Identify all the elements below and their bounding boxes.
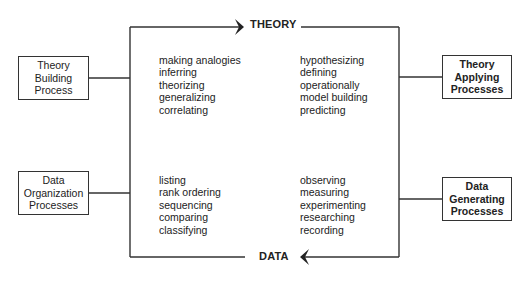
list-item: hypothesizing	[300, 54, 368, 66]
data-generating-processes-box: Data Generating Processes	[442, 177, 512, 221]
list-item: defining	[300, 66, 368, 78]
list-item: inferring	[159, 66, 241, 78]
list-item: recording	[300, 224, 366, 236]
list-item: sequencing	[159, 199, 221, 211]
theory-building-process-box: Theory Building Process	[18, 56, 89, 100]
list-item: making analogies	[159, 54, 241, 66]
theory-building-skills-list: making analogies inferring theorizing ge…	[159, 54, 241, 116]
theory-applying-skills-list: hypothesizing defining operationally mod…	[300, 54, 368, 116]
theory-label: THEORY	[250, 18, 297, 30]
theory-applying-processes-box: Theory Applying Processes	[442, 55, 512, 99]
data-organization-processes-box: Data Organization Processes	[18, 171, 89, 215]
list-item: comparing	[159, 211, 221, 223]
list-item: observing	[300, 174, 366, 186]
list-item: classifying	[159, 224, 221, 236]
data-label: DATA	[259, 250, 289, 262]
data-organization-skills-list: listing rank ordering sequencing compari…	[159, 174, 221, 236]
list-item: rank ordering	[159, 186, 221, 198]
list-item: experimenting	[300, 199, 366, 211]
cycle-lines	[0, 0, 531, 281]
data-generating-skills-list: observing measuring experimenting resear…	[300, 174, 366, 236]
list-item: correlating	[159, 104, 241, 116]
list-item: listing	[159, 174, 221, 186]
list-item: model building	[300, 91, 368, 103]
list-item: theorizing	[159, 79, 241, 91]
list-item: operationally	[300, 79, 368, 91]
list-item: predicting	[300, 104, 368, 116]
list-item: measuring	[300, 186, 366, 198]
list-item: researching	[300, 211, 366, 223]
list-item: generalizing	[159, 91, 241, 103]
